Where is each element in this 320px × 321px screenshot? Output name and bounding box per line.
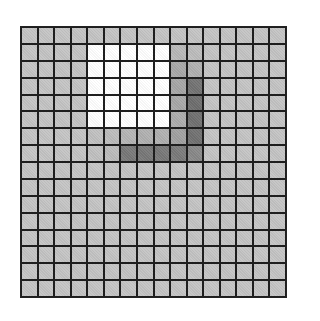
grid-cell <box>171 231 186 246</box>
grid-cell <box>88 247 103 262</box>
grid-cell <box>39 231 54 246</box>
grid-cell <box>171 214 186 229</box>
grid-cell <box>138 45 153 60</box>
grid-cell <box>155 281 170 296</box>
grid-cell <box>55 129 70 144</box>
grid-cell <box>155 231 170 246</box>
grid-cell <box>270 197 285 212</box>
grid-cell <box>72 264 87 279</box>
grid-cell <box>55 146 70 161</box>
grid-cell <box>237 96 252 111</box>
grid-cell <box>155 197 170 212</box>
grid-cell <box>39 281 54 296</box>
grid-cell <box>121 112 136 127</box>
grid-cell <box>88 96 103 111</box>
grid-cell <box>237 264 252 279</box>
grid-cell <box>254 214 269 229</box>
grid-cell <box>221 96 236 111</box>
grid-cell <box>121 231 136 246</box>
grid-cell <box>138 28 153 43</box>
grid-cell <box>22 231 37 246</box>
grid-cell <box>204 264 219 279</box>
grid-cell <box>204 231 219 246</box>
grid-cell <box>22 264 37 279</box>
grid-cell <box>270 146 285 161</box>
grid-cell <box>270 129 285 144</box>
grid-cell <box>138 96 153 111</box>
grid-cell <box>121 62 136 77</box>
grid-cell <box>254 247 269 262</box>
grid-cell <box>22 197 37 212</box>
grid-cell <box>270 180 285 195</box>
grid-cell <box>72 231 87 246</box>
grid-cell <box>55 281 70 296</box>
grid-cell <box>204 281 219 296</box>
grid-cell <box>237 129 252 144</box>
grid-cell <box>121 146 136 161</box>
grid-cell <box>155 79 170 94</box>
grid-cell <box>188 45 203 60</box>
grid-cell <box>39 96 54 111</box>
grid-cell <box>221 112 236 127</box>
grid-cell <box>88 129 103 144</box>
grid-cell <box>138 163 153 178</box>
grid-cell <box>39 79 54 94</box>
grid-cell <box>188 129 203 144</box>
grid-cell <box>22 247 37 262</box>
grid-cell <box>121 281 136 296</box>
grid-cell <box>22 163 37 178</box>
grid-cell <box>55 62 70 77</box>
grid-cell <box>188 247 203 262</box>
grid-cell <box>88 180 103 195</box>
grid-cell <box>188 28 203 43</box>
grid-cell <box>105 79 120 94</box>
grid-cell <box>221 247 236 262</box>
grid-cell <box>55 180 70 195</box>
grid-cell <box>237 79 252 94</box>
grid-cell <box>270 264 285 279</box>
grid-cell <box>188 281 203 296</box>
grid-cell <box>105 214 120 229</box>
grid-cell <box>155 96 170 111</box>
grid-cell <box>204 79 219 94</box>
grid-cell <box>39 62 54 77</box>
grid-cell <box>138 197 153 212</box>
grid-cell <box>188 62 203 77</box>
grid-cell <box>22 281 37 296</box>
grid-cell <box>105 163 120 178</box>
grid-cell <box>138 231 153 246</box>
grid-cell <box>204 28 219 43</box>
grid-cell <box>55 45 70 60</box>
grid-cell <box>171 281 186 296</box>
grid-cell <box>188 146 203 161</box>
grid-cell <box>22 62 37 77</box>
grid-cell <box>237 231 252 246</box>
grid-cell <box>155 45 170 60</box>
grid-cell <box>105 197 120 212</box>
grid-cell <box>55 197 70 212</box>
grid-cell <box>254 163 269 178</box>
grid-cell <box>88 79 103 94</box>
grid-cell <box>72 45 87 60</box>
grid-cell <box>171 163 186 178</box>
grid-cell <box>237 180 252 195</box>
grid-cell <box>188 79 203 94</box>
grid-cell <box>39 146 54 161</box>
grid-cell <box>22 45 37 60</box>
grid-cell <box>105 231 120 246</box>
grid-cell <box>254 146 269 161</box>
grid-cell <box>254 231 269 246</box>
grid-cell <box>171 247 186 262</box>
grid-cell <box>55 231 70 246</box>
grid-cell <box>237 163 252 178</box>
grid-cell <box>171 129 186 144</box>
grid-cell <box>155 129 170 144</box>
grid-cell <box>254 96 269 111</box>
grid-cell <box>88 281 103 296</box>
grid-cell <box>105 264 120 279</box>
grid-cell <box>138 129 153 144</box>
grid-cell <box>221 79 236 94</box>
grid-cell <box>270 62 285 77</box>
grid-cell <box>88 197 103 212</box>
grid-cell <box>39 247 54 262</box>
